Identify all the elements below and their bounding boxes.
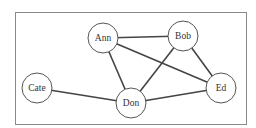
node-label: Ed: [216, 83, 227, 93]
node-label: Cate: [28, 83, 45, 93]
node-ed: Ed: [206, 73, 236, 103]
node-cate: Cate: [22, 73, 52, 103]
node-label: Don: [123, 98, 140, 108]
node-label: Bob: [175, 31, 191, 41]
node-don: Don: [116, 88, 146, 118]
node-ann: Ann: [88, 23, 118, 53]
node-bob: Bob: [168, 21, 198, 51]
node-label: Ann: [95, 33, 112, 43]
graph-diagram: Ann Bob Cate Don Ed: [0, 0, 256, 128]
